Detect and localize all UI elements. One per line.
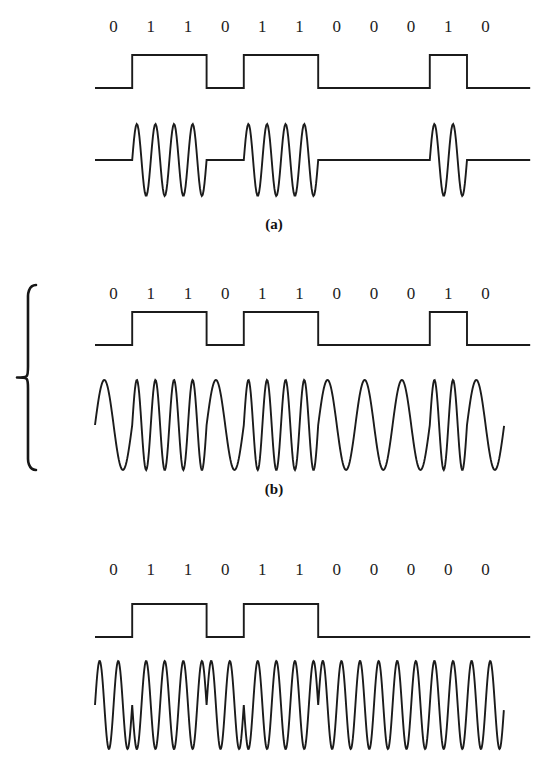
square-wave-fsk <box>95 306 534 351</box>
group-brace-b <box>14 281 44 474</box>
bit-digit: 1 <box>244 285 281 302</box>
bit-digit: 0 <box>318 285 355 302</box>
ask-carrier-wave <box>95 116 534 204</box>
bit-digit: 1 <box>281 285 318 302</box>
panel-label-b: (b) <box>0 481 548 498</box>
bit-digit: 0 <box>318 561 355 578</box>
bit-digit: 1 <box>169 561 206 578</box>
fsk-carrier-wave <box>95 372 534 478</box>
square-wave-ask <box>95 49 534 94</box>
nrz-trace <box>95 55 530 88</box>
bit-digit: 1 <box>281 18 318 35</box>
bit-row-psk: 01101100000 <box>95 557 504 581</box>
fsk-trace <box>95 380 504 470</box>
bit-row-fsk: 01101100010 <box>95 281 504 305</box>
bit-digit: 0 <box>393 18 430 35</box>
bit-digit: 0 <box>430 561 467 578</box>
bit-digit: 0 <box>393 285 430 302</box>
nrz-trace <box>95 312 530 345</box>
bit-digit: 0 <box>318 18 355 35</box>
bit-digit: 1 <box>281 561 318 578</box>
modulation-figure: 01101100010 (a) 01101100010 (b) 01101100… <box>0 0 548 759</box>
bit-digit: 0 <box>355 285 392 302</box>
ask-trace <box>95 124 530 196</box>
bit-digit: 1 <box>132 18 169 35</box>
bit-digit: 1 <box>244 18 281 35</box>
psk-trace <box>95 661 504 749</box>
bit-digit: 0 <box>95 285 132 302</box>
brace-path <box>17 285 36 470</box>
bit-digit: 0 <box>467 18 504 35</box>
bit-digit: 1 <box>244 561 281 578</box>
bit-digit: 0 <box>207 561 244 578</box>
nrz-trace <box>95 604 530 637</box>
psk-carrier-wave <box>95 653 534 757</box>
bit-digit: 0 <box>355 18 392 35</box>
bit-digit: 1 <box>430 18 467 35</box>
bit-digit: 0 <box>467 285 504 302</box>
bit-digit: 0 <box>393 561 430 578</box>
panel-label-a: (a) <box>0 216 548 233</box>
square-wave-psk <box>95 598 534 643</box>
bit-digit: 0 <box>207 285 244 302</box>
bit-digit: 1 <box>169 285 206 302</box>
bit-digit: 1 <box>132 561 169 578</box>
bit-digit: 0 <box>207 18 244 35</box>
bit-digit: 1 <box>430 285 467 302</box>
bit-digit: 1 <box>132 285 169 302</box>
bit-digit: 0 <box>355 561 392 578</box>
bit-row-ask: 01101100010 <box>95 14 504 38</box>
bit-digit: 0 <box>95 561 132 578</box>
bit-digit: 0 <box>95 18 132 35</box>
bit-digit: 0 <box>467 561 504 578</box>
bit-digit: 1 <box>169 18 206 35</box>
